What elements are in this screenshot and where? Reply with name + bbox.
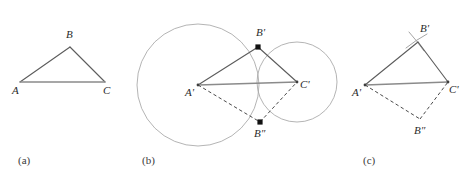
panel-a: ABC(a) [11,28,111,167]
vertex-label-Cprime: C' [449,83,459,95]
edge-Bdoubleprime-Cprime [420,82,448,119]
edge-Bprime-Cprime [418,42,448,82]
vertex-label-Bdoubleprime: B″ [414,124,426,136]
edge-Aprime-Cprime [365,82,448,85]
panel-c: A'B'C'B″(c) [351,22,459,167]
vertex-label-C: C [103,84,111,96]
panel-c-caption: (c) [363,154,376,167]
vertex-label-Bdoubleprime: B″ [254,127,266,139]
vertex-label-A: A [11,84,19,96]
vertex-label-Aprime: A' [351,86,362,98]
edge-Bdoubleprime-Cprime [260,82,297,122]
edge-Aprime-Bdoubleprime [365,85,420,119]
edge-Aprime-Bprime [198,47,258,85]
geometry-figure: ABC(a)A'B'C'B″(b)A'B'C'B″(c) [0,0,463,181]
vertex-label-Bprime: B' [420,22,430,34]
edge-Bprime-Cprime [258,47,297,82]
panel-b-caption: (b) [142,154,155,167]
vertex-label-Aprime: A' [184,86,195,98]
vertex-marker-Aprime [364,84,367,87]
panel-a-caption: (a) [18,154,31,167]
edge-Aprime-Cprime [198,82,297,85]
vertex-label-Cprime: C' [300,78,310,90]
edge-Aprime-Bdoubleprime [198,85,260,122]
vertex-marker-Cprime [296,81,299,84]
edge-B-C [70,47,105,82]
figure-content: ABC(a)A'B'C'B″(b)A'B'C'B″(c) [11,22,459,167]
edge-Aprime-Bprime [365,42,418,85]
panel-b: A'B'C'B″(b) [137,24,337,167]
vertex-marker-Bprime [255,44,260,49]
vertex-marker-Aprime [197,84,200,87]
vertex-marker-Bdoubleprime [257,119,262,124]
vertex-label-B: B [66,28,73,40]
figure-canvas: ABC(a)A'B'C'B″(b)A'B'C'B″(c) [0,0,463,181]
vertex-label-Bprime: B' [256,26,266,38]
edge-A-B [20,47,70,82]
